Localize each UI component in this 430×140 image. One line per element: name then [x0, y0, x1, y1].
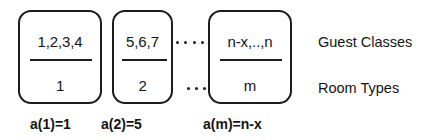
group-divider-m	[220, 59, 282, 61]
group-divider-2	[122, 59, 167, 61]
ellipsis-top	[176, 40, 204, 44]
group-box-m: n-x,..,n m	[208, 10, 292, 104]
guest-classes-value-m: n-x,..,n	[210, 34, 290, 49]
room-type-value-m: m	[210, 78, 290, 93]
guest-class-room-type-diagram: 1,2,3,4 1 5,6,7 2 n-x,..,n m Guest Class…	[0, 0, 430, 140]
caption-group-m: a(m)=n-x	[203, 117, 262, 131]
caption-group-1: a(1)=1	[30, 117, 71, 131]
guest-classes-value-2: 5,6,7	[114, 34, 171, 49]
ellipsis-dot	[187, 87, 190, 90]
room-type-value-1: 1	[20, 78, 100, 93]
group-divider-1	[30, 59, 92, 61]
ellipsis-dot	[195, 87, 198, 90]
group-box-1: 1,2,3,4 1	[18, 10, 102, 104]
ellipsis-bottom	[187, 86, 206, 90]
ellipsis-dot	[201, 41, 204, 44]
ellipsis-dot	[184, 41, 187, 44]
room-type-value-2: 2	[114, 78, 171, 93]
ellipsis-dot	[203, 87, 206, 90]
group-box-2: 5,6,7 2	[112, 10, 173, 104]
ellipsis-dot	[176, 41, 179, 44]
caption-group-2: a(2)=5	[101, 117, 142, 131]
row-label-room-types: Room Types	[318, 81, 399, 96]
row-label-guest-classes: Guest Classes	[318, 35, 412, 50]
guest-classes-value-1: 1,2,3,4	[20, 34, 100, 49]
ellipsis-dot	[193, 41, 196, 44]
